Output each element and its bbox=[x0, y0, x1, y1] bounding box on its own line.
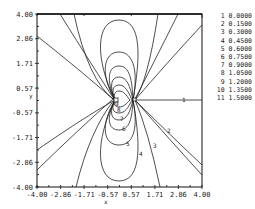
svg-text:-4.00: -4.00 bbox=[26, 191, 47, 199]
legend-item: 11 1.5000 bbox=[216, 94, 252, 102]
svg-text:-2.86: -2.86 bbox=[12, 159, 33, 167]
svg-text:-2.86: -2.86 bbox=[50, 191, 71, 199]
svg-text:-0.57: -0.57 bbox=[12, 109, 33, 117]
contour-lines bbox=[37, 14, 202, 187]
legend-item: 7 0.9000 bbox=[216, 61, 252, 69]
svg-text:-1.71: -1.71 bbox=[74, 191, 95, 199]
plot-frame bbox=[37, 14, 202, 187]
legend-item: 6 0.7500 bbox=[216, 53, 252, 61]
svg-text:1.71: 1.71 bbox=[146, 191, 163, 199]
x-tick-labels: -4.00 -2.86 -1.71 -0.57 0.57 1.71 2.86 4… bbox=[26, 191, 210, 205]
svg-text:4.00: 4.00 bbox=[16, 11, 33, 19]
legend-item: 4 0.4500 bbox=[216, 37, 252, 45]
svg-text:4.00: 4.00 bbox=[194, 191, 211, 199]
legend-item: 10 1.3500 bbox=[216, 86, 252, 94]
svg-text:-1.71: -1.71 bbox=[12, 134, 33, 142]
svg-text:8: 8 bbox=[117, 106, 121, 113]
svg-text:1: 1 bbox=[182, 96, 186, 103]
svg-text:5: 5 bbox=[126, 140, 130, 147]
y-tick-labels: 4.00 2.86 1.71 0.57 -0.57 -1.71 -2.86 -4… bbox=[12, 11, 33, 192]
y-axis-label: y bbox=[29, 92, 33, 100]
legend-item: 9 1.2000 bbox=[216, 78, 252, 86]
svg-text:2: 2 bbox=[167, 127, 171, 134]
x-axis bbox=[37, 14, 202, 189]
svg-text:4: 4 bbox=[139, 150, 143, 157]
x-axis-label: x bbox=[104, 198, 108, 205]
legend-item: 5 0.6000 bbox=[216, 45, 252, 53]
legend: 1 0.0000 2 0.1500 3 0.3000 4 0.4500 5 0.… bbox=[216, 12, 252, 102]
legend-item: 2 0.1500 bbox=[216, 20, 252, 28]
svg-text:6: 6 bbox=[122, 125, 126, 132]
svg-text:7: 7 bbox=[120, 115, 124, 122]
svg-text:2.86: 2.86 bbox=[170, 191, 187, 199]
svg-text:9: 9 bbox=[115, 100, 119, 107]
svg-text:-0.57: -0.57 bbox=[97, 191, 118, 199]
legend-item: 1 0.0000 bbox=[216, 12, 252, 20]
legend-item: 8 1.0500 bbox=[216, 69, 252, 77]
svg-text:0.57: 0.57 bbox=[123, 191, 140, 199]
svg-text:1.71: 1.71 bbox=[16, 60, 33, 68]
legend-item: 3 0.3000 bbox=[216, 28, 252, 36]
svg-text:3: 3 bbox=[153, 142, 157, 149]
svg-text:2.86: 2.86 bbox=[16, 35, 33, 43]
